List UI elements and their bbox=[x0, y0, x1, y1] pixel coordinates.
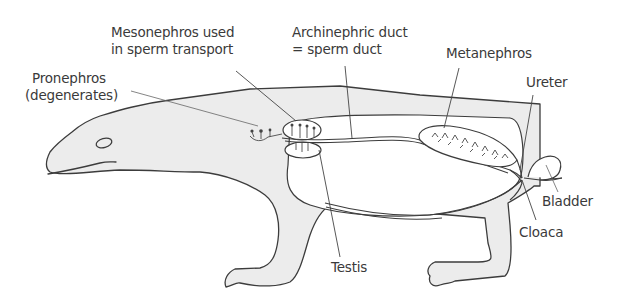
label-cloaca: Cloaca bbox=[519, 224, 563, 241]
label-ureter: Ureter bbox=[526, 74, 567, 91]
label-mesonephros: Mesonephros used in sperm transport bbox=[111, 24, 234, 58]
label-pronephros: Pronephros (degenerates) bbox=[25, 70, 118, 104]
testis bbox=[285, 142, 321, 158]
label-bladder: Bladder bbox=[542, 193, 593, 210]
urogenital-diagram: Mesonephros used in sperm transport Arch… bbox=[0, 0, 622, 297]
label-archinephric-duct: Archinephric duct = sperm duct bbox=[292, 24, 408, 58]
label-testis: Testis bbox=[331, 259, 367, 276]
mesonephros bbox=[283, 120, 321, 140]
label-metanephros: Metanephros bbox=[446, 45, 532, 62]
